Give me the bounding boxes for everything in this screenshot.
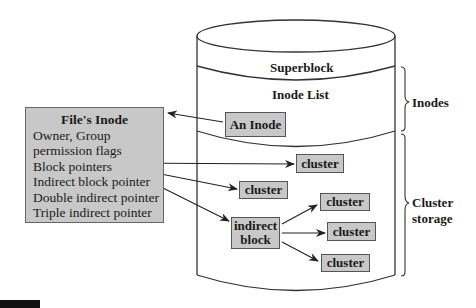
field-double-indirect-pointer: Double indirect pointer bbox=[33, 190, 163, 206]
arrow-an-inode-to-file-inode bbox=[168, 113, 223, 122]
field-owner-group: Owner, Group bbox=[33, 128, 163, 144]
an-inode-label: An Inode bbox=[230, 118, 282, 132]
superblock-label: Superblock bbox=[270, 60, 334, 75]
an-inode-box: An Inode bbox=[225, 112, 286, 137]
cluster-label: cluster bbox=[245, 183, 283, 197]
arrow-indirect-block-to-cluster-5 bbox=[282, 242, 318, 261]
cluster-label: cluster bbox=[333, 225, 371, 239]
field-indirect-block-pointer: Indirect block pointer bbox=[33, 174, 163, 190]
field-permission-flags: permission flags bbox=[33, 143, 163, 159]
brace-label-inodes: Inodes bbox=[412, 95, 449, 110]
file-inode-box: File's Inode Owner, Group permission fla… bbox=[25, 107, 164, 223]
cluster-box-3: cluster bbox=[320, 193, 370, 211]
brace-inodes bbox=[401, 67, 409, 131]
brace-label-cluster-storage-line2: storage bbox=[412, 211, 452, 226]
disk-bottom-curve bbox=[197, 275, 395, 291]
brace-lines bbox=[401, 67, 409, 276]
cluster-box-5: cluster bbox=[321, 254, 370, 272]
cluster-box-4: cluster bbox=[327, 222, 376, 241]
cluster-box-2: cluster bbox=[239, 181, 288, 199]
brace-label-cluster-storage-line1: Cluster bbox=[412, 195, 453, 210]
field-block-pointers: Block pointers bbox=[33, 159, 163, 175]
indirect-block-box: indirect block bbox=[231, 217, 280, 249]
cluster-label: cluster bbox=[301, 157, 339, 171]
brace-cluster-storage bbox=[401, 134, 409, 276]
cluster-box-1: cluster bbox=[296, 154, 344, 173]
indirect-block-label-line2: block bbox=[240, 233, 270, 247]
file-inode-title: File's Inode bbox=[26, 112, 163, 128]
inode-list-label: Inode List bbox=[272, 87, 329, 102]
corner-mark bbox=[0, 300, 40, 308]
cluster-label: cluster bbox=[326, 195, 364, 209]
field-triple-indirect-pointer: Triple indirect pointer bbox=[33, 205, 163, 221]
indirect-block-label-line1: indirect bbox=[234, 219, 277, 233]
cluster-label: cluster bbox=[327, 256, 365, 270]
arrow-indirect-block-to-cluster-3 bbox=[282, 205, 317, 224]
disk-top-ellipse bbox=[197, 20, 395, 52]
